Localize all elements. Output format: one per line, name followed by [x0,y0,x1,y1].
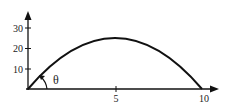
trajectory-diagram: 10 20 30 5 10 θ [0,0,229,107]
y-axis-arrow-icon [25,11,32,20]
y-tick-label-20: 20 [13,43,23,54]
y-tick-label-30: 30 [13,23,23,34]
angle-label: θ [53,73,59,87]
x-axis-arrow-icon [210,86,219,93]
x-tick-label-5: 5 [114,93,119,104]
angle-arrow-icon [39,75,45,80]
y-tick-label-10: 10 [13,64,23,75]
x-tick-label-10: 10 [199,93,209,104]
